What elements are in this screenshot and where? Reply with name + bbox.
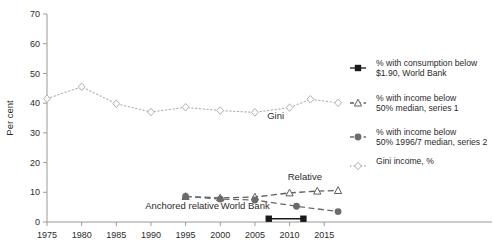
x-tick-label: 1995 [176,230,196,240]
y-tick-label: 10 [30,187,40,197]
series-marker-anchored_series2 [335,208,342,215]
series-marker-gini [44,95,51,103]
legend-marker-2 [355,134,362,141]
annotation-world_bank_label: World Bank [221,200,270,211]
series-marker-gini [113,100,120,108]
x-tick-label: 1975 [37,230,57,240]
y-tick-label: 50 [30,69,40,79]
series-line-gini [47,87,338,113]
x-tick-label: 2005 [245,230,265,240]
x-tick-label: 2010 [280,230,300,240]
y-tick-label: 30 [30,128,40,138]
y-axis-title: Per cent [4,100,15,136]
annotation-gini_label: Gini [267,110,284,121]
chart-canvas: 010203040506070Per cent19751980198519901… [0,0,494,249]
annotation-anchored_label: Anchored relative [145,200,219,211]
legend-label-2-line2: 50% 1996/7 median, series 2 [376,137,488,147]
x-tick-label: 1985 [106,230,126,240]
legend-marker-0 [355,65,361,71]
x-tick-label: 2000 [210,230,230,240]
legend-label-1-line2: 50% median, series 1 [376,103,459,113]
y-tick-label: 20 [30,158,40,168]
series-marker-world_bank [300,216,306,222]
series-marker-relative_series1 [334,187,341,194]
series-marker-world_bank [266,216,272,222]
plot-area: 010203040506070Per cent19751980198519901… [0,0,494,249]
y-tick-label: 40 [30,98,40,108]
series-marker-gini [182,104,189,112]
annotation-relative_label: Relative [288,171,322,182]
series-marker-gini [335,99,342,107]
x-tick-label: 1980 [72,230,92,240]
y-tick-label: 60 [30,39,40,49]
series-marker-gini [307,95,314,103]
series-marker-gini [217,107,224,115]
series-marker-anchored_series2 [182,193,189,200]
legend-label-1-line1: % with income below [376,93,457,103]
y-tick-label: 0 [35,217,40,227]
series-marker-gini [78,83,85,91]
chart-figure: 010203040506070Per cent19751980198519901… [0,0,494,249]
y-tick-label: 70 [30,9,40,19]
series-marker-gini [148,108,155,116]
series-marker-gini [252,109,259,117]
x-tick-label: 2015 [314,230,334,240]
series-marker-gini [286,104,293,112]
series-marker-anchored_series2 [293,203,300,210]
legend-label-3-line1: Gini income, % [376,156,434,166]
legend-label-2-line1: % with income below [376,127,457,137]
x-tick-label: 1990 [141,230,161,240]
legend-label-0-line1: % with consumption below [376,58,478,68]
legend-label-0-line2: $1.90, World Bank [376,68,447,78]
legend-marker-3 [355,162,362,170]
